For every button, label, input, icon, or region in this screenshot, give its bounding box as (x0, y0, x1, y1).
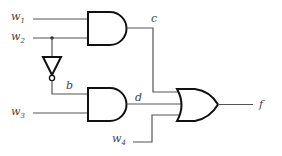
inverter-bubble (49, 75, 54, 80)
label-w1: w1 (11, 10, 25, 25)
or-gate (177, 89, 218, 121)
not-gate (43, 57, 61, 75)
logic-circuit-diagram: w1 w2 w3 w4 c b d f (0, 0, 282, 156)
and-gate-2 (88, 88, 127, 121)
label-f: f (258, 98, 265, 111)
label-b: b (66, 79, 73, 92)
label-w3: w3 (11, 105, 25, 120)
label-w4: w4 (112, 132, 126, 147)
label-c: c (151, 12, 157, 25)
wire-w4 (133, 115, 180, 142)
label-d: d (135, 91, 142, 104)
label-w2: w2 (11, 30, 25, 45)
and-gate-1 (88, 12, 127, 45)
wire-c (127, 28, 181, 92)
